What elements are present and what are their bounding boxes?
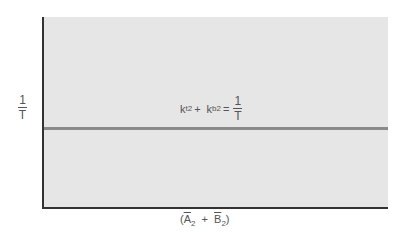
line-equation: kt2 + kb2 = 1 T (180, 95, 242, 122)
y-label-denominator: T (19, 109, 26, 121)
y-label-numerator: 1 (19, 94, 26, 106)
x-axis-label: (A2 + B2) (180, 213, 230, 228)
eq-rhs-numerator: 1 (235, 95, 242, 107)
x-label-a: A (184, 213, 191, 225)
x-label-plus: + (202, 213, 208, 225)
y-axis-label: 1 T (18, 94, 27, 121)
eq-rhs-fraction: 1 T (233, 95, 242, 122)
eq-plus: + (194, 103, 200, 115)
x-axis (42, 207, 388, 209)
eq-term1-sub: t2 (186, 104, 193, 113)
eq-term2-sub: b2 (212, 104, 221, 113)
x-label-a-sub: 2 (191, 219, 195, 228)
constant-line (44, 127, 388, 130)
x-label-close: ) (226, 213, 230, 225)
y-axis (42, 17, 44, 209)
eq-rhs-denominator: T (234, 110, 241, 122)
eq-equals: = (223, 103, 229, 115)
